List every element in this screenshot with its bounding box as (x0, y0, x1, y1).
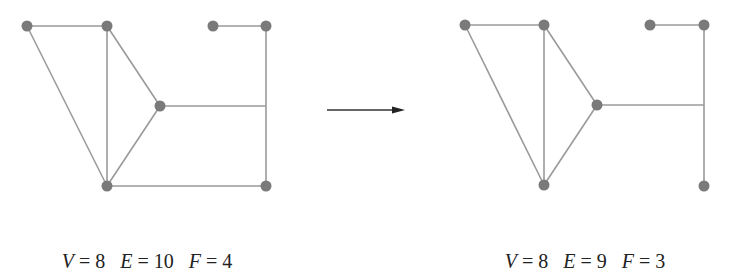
edge-A-F (27, 26, 107, 186)
edge-E-F (107, 106, 160, 186)
vertex-G (699, 181, 710, 192)
caption-counts: V = 8 E = 10 F = 4 (27, 250, 267, 272)
vertex-C (645, 20, 656, 31)
vertex-E (592, 100, 603, 111)
vertex-B (539, 20, 550, 31)
count-V: V = 8 (505, 250, 549, 272)
count-E: E = 9 (563, 250, 607, 272)
caption-after: V = 8 E = 9 F = 3 V − E + F = 2 (465, 206, 705, 272)
vertex-G (261, 181, 272, 192)
vertex-D (261, 21, 272, 32)
vertex-A (460, 20, 471, 31)
count-F: F = 3 (622, 250, 666, 272)
arrow-head (392, 107, 405, 114)
count-F: F = 4 (189, 250, 233, 272)
graph-before (22, 21, 272, 192)
edge-B-E (544, 25, 597, 105)
caption-counts: V = 8 E = 9 F = 3 (465, 250, 705, 272)
count-V: V = 8 (62, 250, 106, 272)
vertex-E (155, 101, 166, 112)
vertex-D (699, 20, 710, 31)
graph-after (460, 20, 710, 192)
vertex-F (539, 180, 550, 191)
caption-before: V = 8 E = 10 F = 4 V − E + F = 2 (27, 206, 267, 272)
vertex-F (102, 181, 113, 192)
count-E: E = 10 (120, 250, 174, 272)
edge-E-F (544, 105, 597, 185)
vertex-B (102, 21, 113, 32)
arrow-icon (327, 107, 405, 114)
vertex-C (208, 21, 219, 32)
edge-A-F (465, 25, 544, 185)
edge-B-E (107, 26, 160, 106)
vertex-A (22, 21, 33, 32)
